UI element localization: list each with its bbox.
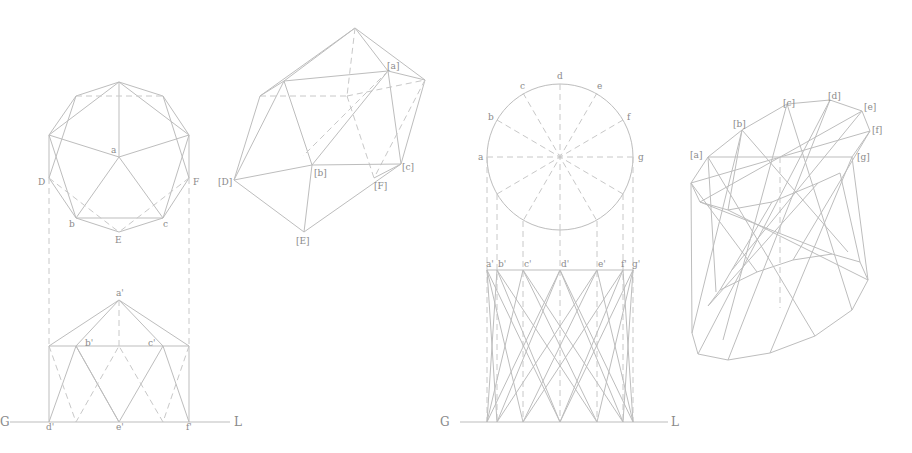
panel1-elevation: a' b' c' d' e' f' G L <box>0 288 242 432</box>
circ-label-f: f <box>627 112 631 122</box>
hyp-label-a: a' <box>486 259 494 269</box>
elev-label-d: d' <box>46 422 54 432</box>
ground-label-G2: G <box>440 415 450 429</box>
circ-label-a: a <box>478 152 484 162</box>
elev-label-c: c' <box>148 338 156 348</box>
elev-label-e: e' <box>116 422 124 432</box>
hyp-label-c: c' <box>524 259 532 269</box>
obl-label-D: [D] <box>218 177 232 187</box>
elev-label-f: f' <box>186 422 192 432</box>
obl-label-c: [c] <box>402 162 414 172</box>
plan-label-b: b <box>69 219 75 229</box>
obl-label-F: [F] <box>374 181 387 191</box>
obl-label-E: [E] <box>296 236 310 246</box>
ground-label-L1: L <box>234 415 242 429</box>
hob-label-e: [e] <box>864 102 876 112</box>
plan-label-E: E <box>115 235 122 245</box>
panel2-oblique: [a] [b] [c] [D] [E] [F] <box>218 28 425 246</box>
panel4-oblique: [a] [b] [c] [d] [e] [f] [g] <box>690 91 882 360</box>
hob-label-g: [g] <box>857 152 870 162</box>
plan-label-F: F <box>193 177 199 187</box>
panel1-plan: a D F b c E <box>38 82 199 346</box>
ground-label-G1: G <box>0 415 10 429</box>
hyp-label-b: b' <box>498 259 506 269</box>
drawing-canvas: a D F b c E a' b' c' d' e' f' G L <box>0 0 912 453</box>
plan-label-D: D <box>38 177 45 187</box>
plan-label-a: a <box>111 145 117 155</box>
obl-label-b: [b] <box>314 168 327 178</box>
circ-label-b: b <box>488 112 494 122</box>
hob-label-d: [d] <box>828 91 841 101</box>
hyp-label-g: g' <box>632 259 640 269</box>
ground-label-L2: L <box>671 415 679 429</box>
obl-label-a: [a] <box>387 61 399 71</box>
panel3-plan: a b c d e f g <box>478 71 644 422</box>
circ-label-d: d <box>557 71 563 81</box>
hob-label-c: [c] <box>783 98 795 108</box>
hob-label-b: [b] <box>733 119 746 129</box>
circ-label-e: e <box>597 81 602 91</box>
elev-label-a: a' <box>116 288 124 298</box>
hyp-label-d: d' <box>561 259 569 269</box>
circ-label-c: c <box>520 81 525 91</box>
hob-label-a: [a] <box>690 150 702 160</box>
circ-label-g: g <box>638 152 644 162</box>
hyp-label-e: e' <box>598 259 606 269</box>
elev-label-b: b' <box>85 338 93 348</box>
hyp-label-f: f' <box>621 259 627 269</box>
hob-label-f: [f] <box>872 125 882 135</box>
plan-label-c: c <box>163 219 168 229</box>
